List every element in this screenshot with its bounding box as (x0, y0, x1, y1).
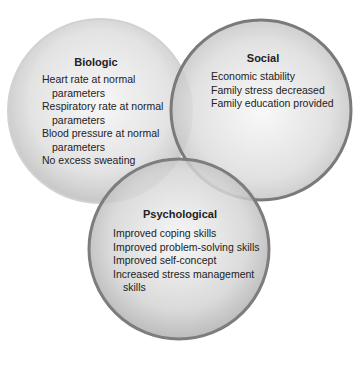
biologic-title: Biologic (66, 56, 126, 68)
biologic-items: Heart rate at normal parameters Respirat… (42, 73, 163, 168)
social-item: Economic stability (211, 70, 334, 84)
biologic-item: No excess sweating (42, 154, 163, 168)
venn-diagram (0, 0, 363, 370)
psychological-title: Psychological (130, 208, 230, 220)
social-title: Social (233, 52, 293, 64)
biologic-item: Respiratory rate at normal (42, 100, 163, 114)
social-item: Family education provided (211, 97, 334, 111)
psychological-item: Increased stress management (113, 268, 259, 282)
biologic-item: parameters (42, 141, 163, 155)
biologic-item: parameters (42, 87, 163, 101)
psychological-item: Improved self-concept (113, 254, 259, 268)
social-items: Economic stability Family stress decreas… (211, 70, 334, 111)
psychological-item: Improved problem-solving skills (113, 241, 259, 255)
psychological-item: skills (113, 281, 259, 295)
psychological-item: Improved coping skills (113, 227, 259, 241)
psychological-items: Improved coping skills Improved problem-… (113, 227, 259, 295)
social-item: Family stress decreased (211, 84, 334, 98)
biologic-item: Heart rate at normal (42, 73, 163, 87)
biologic-item: Blood pressure at normal (42, 127, 163, 141)
biologic-item: parameters (42, 114, 163, 128)
